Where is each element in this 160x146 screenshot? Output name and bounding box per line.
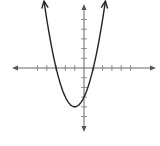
parabola-graph	[0, 0, 160, 146]
parabola-path	[44, 1, 105, 107]
parabola-curve	[42, 1, 108, 107]
x-axis-right-arrow-icon	[150, 66, 156, 71]
y-axis-down-arrow-icon	[82, 126, 87, 132]
axes	[12, 4, 156, 132]
x-axis-left-arrow-icon	[12, 66, 18, 71]
y-axis-up-arrow-icon	[82, 4, 87, 10]
